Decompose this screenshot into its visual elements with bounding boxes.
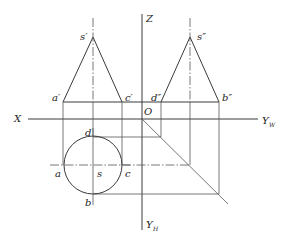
yh-axis-sub: H — [152, 225, 159, 232]
label-s: s — [97, 168, 102, 179]
label-a-prime: a′ — [52, 92, 61, 103]
yw-axis-sub: W — [269, 121, 276, 128]
label-b-double-prime: b″ — [222, 92, 232, 103]
top-view — [50, 128, 130, 205]
projection-diagram: X Z O Y W Y H s′ a′ c′ s″ d″ b″ d a s c … — [0, 0, 284, 245]
side-view — [142, 18, 219, 102]
label-s-prime: s′ — [80, 31, 88, 42]
label-s-double-prime: s″ — [197, 31, 206, 42]
label-c: c — [125, 168, 131, 179]
top-miter-projectors — [93, 137, 219, 194]
side-miter-projectors — [161, 102, 219, 194]
z-axis-label: Z — [145, 13, 154, 24]
front-top-projectors — [63, 102, 122, 165]
origin-label: O — [144, 106, 152, 117]
miter-line — [142, 119, 228, 204]
front-view — [63, 18, 142, 102]
label-d: d — [85, 127, 91, 138]
label-d-double-prime: d″ — [151, 92, 161, 103]
x-axis-label: X — [13, 113, 22, 124]
label-c-prime: c′ — [125, 92, 134, 103]
label-b: b — [85, 197, 91, 208]
label-a: a — [55, 168, 61, 179]
